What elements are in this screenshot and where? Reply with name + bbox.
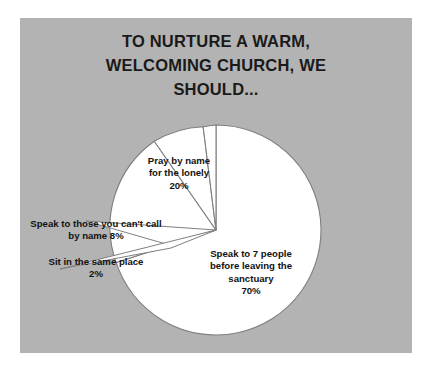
pie-label-speak-7-people: Speak to 7 people before leaving the san… bbox=[190, 248, 312, 298]
pie-label-speak-to-those: Speak to those you can't call by name 8% bbox=[22, 218, 170, 243]
pie-label-sit-in-same-place: Sit in the same place 2% bbox=[26, 256, 166, 281]
pie-label-pray-by-name: Pray by name for the lonely 20% bbox=[132, 155, 226, 192]
slide-canvas: TO NURTURE A WARM, WELCOMING CHURCH, WE … bbox=[0, 0, 429, 372]
